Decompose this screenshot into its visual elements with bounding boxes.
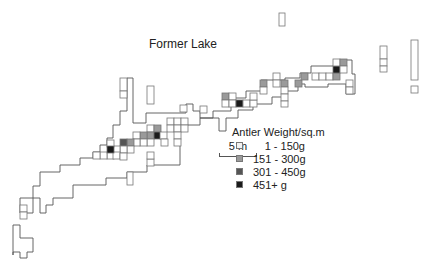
grid-cell xyxy=(147,132,154,139)
grid-cell xyxy=(250,100,257,107)
grid-cell xyxy=(346,87,353,94)
grid-cell xyxy=(174,125,181,132)
grid-cell xyxy=(200,106,207,113)
grid-cell xyxy=(301,73,308,80)
swatch-icon xyxy=(236,155,243,162)
grid-cell xyxy=(340,66,347,73)
grid-cell xyxy=(229,93,236,100)
grid-cell xyxy=(147,152,154,159)
grid-cell xyxy=(133,132,140,139)
grid-cell xyxy=(380,59,387,66)
map-title: Former Lake xyxy=(149,37,217,51)
grid-cell xyxy=(127,139,134,146)
grid-cell xyxy=(174,132,181,139)
grid-cell xyxy=(229,100,236,107)
legend-title: Antler Weight/sq.m xyxy=(232,126,325,138)
grid-cell xyxy=(167,125,174,132)
grid-cell xyxy=(20,205,27,212)
grid-cell xyxy=(154,125,161,132)
grid-cell xyxy=(411,86,418,93)
grid-cell xyxy=(120,91,127,98)
grid-cell xyxy=(93,152,100,159)
grid-cell xyxy=(181,118,188,125)
grid-cell xyxy=(319,73,326,80)
grid-cell xyxy=(140,132,147,139)
grid-cell xyxy=(250,93,257,100)
grid-cell xyxy=(312,73,319,80)
grid-cell xyxy=(260,87,267,94)
legend: Antler Weight/sq.m 1 - 150g 151 - 300g 3… xyxy=(232,126,325,191)
legend-item: 151 - 300g xyxy=(236,152,325,165)
legend-item: 301 - 450g xyxy=(236,165,325,178)
grid-cell xyxy=(281,101,288,107)
grid-cell xyxy=(273,80,280,87)
swatch-icon xyxy=(236,168,243,175)
grid-cell xyxy=(380,46,387,59)
grid-cell xyxy=(411,40,418,80)
grid-cell xyxy=(107,146,114,153)
grid-cell xyxy=(281,94,288,101)
swatch-icon xyxy=(236,181,243,188)
grid-cell xyxy=(20,212,27,219)
grid-cell xyxy=(333,66,340,73)
grid-cell xyxy=(120,153,127,160)
grid-cell xyxy=(140,139,147,146)
legend-item: 1 - 150g xyxy=(236,139,325,152)
grid-cell xyxy=(127,172,133,185)
grid-cell xyxy=(100,152,107,159)
grid-cell xyxy=(120,78,127,91)
grid-cell xyxy=(380,66,387,72)
grid-cell xyxy=(147,139,154,146)
grid-cell xyxy=(281,80,288,87)
grid-cell xyxy=(127,146,134,153)
grid-cell xyxy=(273,73,280,80)
grid-cells xyxy=(20,13,418,219)
grid-cell xyxy=(260,80,267,87)
grid-cell xyxy=(279,13,285,26)
grid-cell xyxy=(161,139,168,146)
grid-cell xyxy=(174,139,181,146)
grid-cell xyxy=(222,93,229,100)
legend-item: 451+ g xyxy=(236,178,325,191)
grid-cell xyxy=(326,73,333,80)
grid-cell xyxy=(147,125,154,132)
grid-cell xyxy=(180,105,187,112)
grid-cell xyxy=(181,125,188,132)
swatch-icon xyxy=(236,142,243,149)
grid-cell xyxy=(120,139,127,146)
grid-cell xyxy=(281,87,288,94)
grid-cell xyxy=(333,73,340,80)
grid-cell xyxy=(243,100,250,107)
grid-cell xyxy=(222,100,229,107)
grid-cell xyxy=(340,59,347,66)
grid-cell xyxy=(120,146,127,153)
grid-cell xyxy=(147,86,154,104)
grid-cell xyxy=(160,132,167,139)
grid-cell xyxy=(174,118,181,125)
grid-cell xyxy=(236,100,243,107)
grid-cell xyxy=(167,118,174,125)
grid-cell xyxy=(346,80,353,87)
grid-cell xyxy=(333,59,340,66)
grid-cell xyxy=(295,80,302,87)
grid-cell xyxy=(147,159,154,166)
